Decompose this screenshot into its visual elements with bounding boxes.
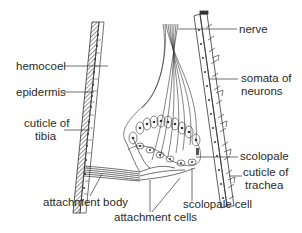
label-somata-line1: somata of [241, 72, 292, 85]
attachment-body-strands [84, 138, 195, 181]
label-somata-line2: neurons [241, 85, 283, 98]
label-hemocoel: hemocoel [16, 60, 66, 73]
label-tibia-line2: tibia [35, 130, 56, 143]
label-scolopale: scolopale [240, 150, 289, 163]
label-trachea-line1: cuticle of [243, 166, 288, 179]
label-epidermis: epidermis [16, 86, 66, 99]
trachea-wall [194, 11, 235, 208]
label-tibia-line1: cuticle of [24, 117, 69, 130]
label-attachment-body: attachment body [43, 196, 128, 209]
neuron-somata [129, 115, 200, 146]
label-attachment-cells: attachment cells [114, 211, 197, 224]
label-nerve: nerve [239, 23, 268, 36]
label-trachea-line2: trachea [245, 179, 283, 192]
nerve-bundle [124, 24, 197, 160]
scolopale-cells [128, 140, 201, 166]
label-scolopale-cell: scolopale cell [183, 198, 252, 211]
